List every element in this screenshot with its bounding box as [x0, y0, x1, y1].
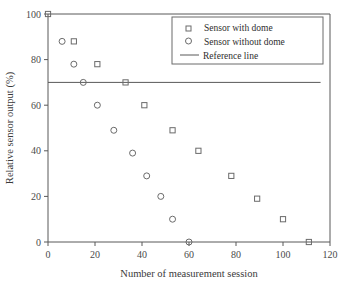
scatter-chart-figure: 020406080100 020406080100120 Number of m… [0, 0, 347, 285]
data-point-square [95, 62, 100, 67]
data-point-square [255, 196, 260, 201]
data-point-square [229, 173, 234, 178]
data-point-square [196, 148, 201, 153]
y-axis-ticks: 020406080100 [26, 9, 48, 248]
x-tick-label: 80 [231, 249, 241, 260]
x-tick-label: 20 [90, 249, 100, 260]
data-point-square [280, 217, 285, 222]
x-tick-label: 120 [323, 249, 338, 260]
legend-label-reference-line: Reference line [203, 51, 258, 61]
y-tick-label: 0 [36, 237, 41, 248]
x-axis-title: Number of measurement session [120, 268, 258, 279]
y-tick-label: 80 [31, 54, 41, 65]
legend-label-sensor-without-dome: Sensor without dome [204, 37, 285, 47]
x-tick-label: 60 [184, 249, 194, 260]
data-point-square [71, 39, 76, 44]
y-tick-label: 60 [31, 100, 41, 111]
legend-label-sensor-with-dome: Sensor with dome [204, 23, 273, 33]
chart-canvas: 020406080100 020406080100120 Number of m… [0, 0, 347, 285]
y-axis-title: Relative sensor output (%) [4, 71, 16, 184]
x-tick-label: 40 [137, 249, 147, 260]
x-axis-ticks: 020406080100120 [46, 242, 338, 260]
data-point-square [142, 103, 147, 108]
data-point-circle [59, 38, 65, 44]
y-tick-label: 40 [31, 145, 41, 156]
series-sensor-without-dome [59, 38, 192, 245]
y-tick-label: 100 [26, 9, 41, 20]
x-tick-label: 100 [276, 249, 291, 260]
data-point-circle [94, 102, 100, 108]
y-tick-label: 20 [31, 191, 41, 202]
chart-legend: Sensor with dome Sensor without dome Ref… [172, 17, 323, 64]
data-point-circle [111, 127, 117, 133]
data-point-circle [144, 173, 150, 179]
data-point-circle [71, 61, 77, 67]
data-point-circle [170, 216, 176, 222]
data-point-circle [130, 150, 136, 156]
x-tick-label: 0 [46, 249, 51, 260]
data-point-circle [158, 193, 164, 199]
data-point-square [170, 128, 175, 133]
